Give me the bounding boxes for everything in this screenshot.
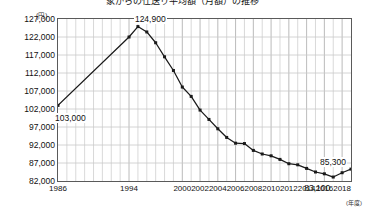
y-axis-tick-label: 127,000 — [1, 14, 55, 24]
x-axis-tick-label: 1986 — [49, 184, 67, 193]
x-axis-tick-label: 2018 — [333, 184, 351, 193]
x-axis-tick-label: 2008 — [244, 184, 262, 193]
y-axis-tick-label: 97,000 — [1, 122, 55, 132]
x-axis-tick-label: 2012 — [280, 184, 298, 193]
x-axis-tick-label: 1994 — [120, 184, 138, 193]
x-axis-tick-label: 2002 — [191, 184, 209, 193]
chart-container: 家からの仕送り平均額（月額）の推移 (円) 127,000122,000117,… — [0, 0, 365, 210]
x-axis-unit-label: (年度) — [346, 198, 362, 207]
x-axis-tick-label: 2010 — [262, 184, 280, 193]
peak-value-label: 124,900 — [134, 14, 167, 24]
start-value-label: 103,000 — [54, 113, 87, 123]
vertical-gridlines — [67, 19, 342, 181]
x-axis-tick-label: 2000 — [173, 184, 191, 193]
y-axis-tick-labels: 127,000122,000117,000112,000107,000102,0… — [0, 0, 55, 210]
y-axis-tick-label: 87,000 — [1, 158, 55, 168]
x-axis-tick-label: 2004 — [209, 184, 227, 193]
line-chart-svg — [58, 19, 351, 181]
y-axis-tick-label: 112,000 — [1, 68, 55, 78]
y-axis-tick-label: 107,000 — [1, 86, 55, 96]
x-axis-tick-label: 2014 — [298, 184, 316, 193]
x-axis-tick-labels: 1986199420002002200420062008201020122014… — [0, 184, 365, 198]
plot-area — [57, 18, 352, 182]
y-axis-tick-label: 122,000 — [1, 32, 55, 42]
y-axis-tick-label: 92,000 — [1, 140, 55, 150]
y-axis-tick-label: 117,000 — [1, 50, 55, 60]
end-value-label: 85,300 — [319, 157, 347, 167]
x-axis-tick-label: 2016 — [315, 184, 333, 193]
x-axis-tick-label: 2006 — [227, 184, 245, 193]
y-axis-tick-label: 102,000 — [1, 104, 55, 114]
